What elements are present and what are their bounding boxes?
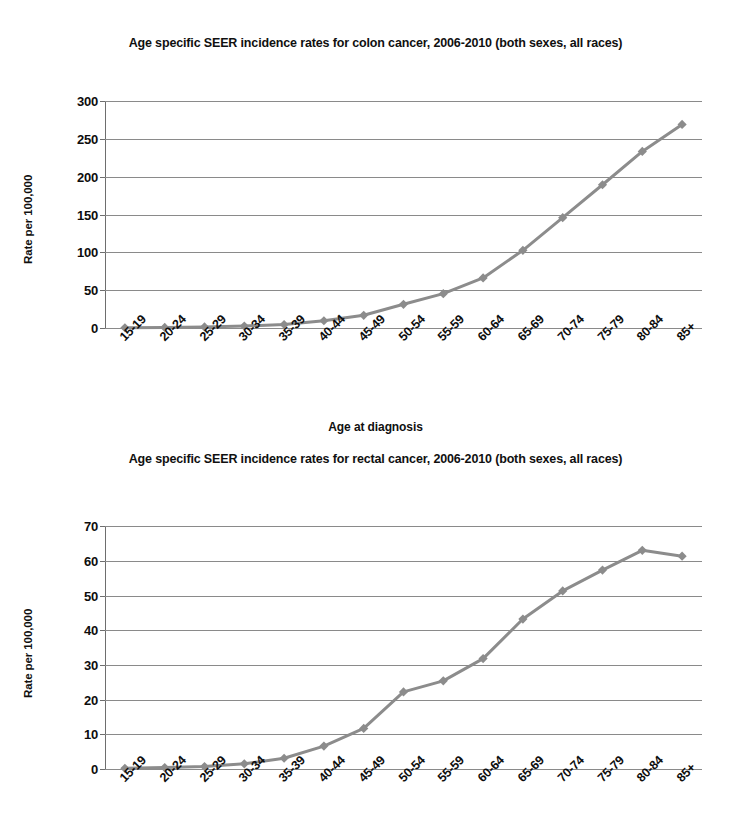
y-axis-tick-label: 150 (77, 207, 98, 222)
y-axis-tick-label: 0 (91, 321, 98, 336)
plot-rectal: 010203040506070 (105, 526, 702, 769)
plot-colon: 050100150200250300 (105, 101, 702, 328)
y-axis-tick-label: 50 (84, 588, 98, 603)
chart-title-rectal: Age specific SEER incidence rates for re… (76, 450, 676, 468)
y-axis-tick-label: 60 (84, 553, 98, 568)
data-point-marker (399, 300, 408, 309)
series-line (125, 550, 682, 768)
data-series (105, 526, 702, 769)
data-point-marker (678, 552, 687, 561)
x-axis-title-colon: Age at diagnosis (0, 420, 751, 434)
y-axis-tick-label: 250 (77, 131, 98, 146)
chart-colon-cancer: Age specific SEER incidence rates for co… (0, 34, 751, 434)
data-point-marker (359, 311, 368, 320)
y-axis-tick-label: 20 (84, 692, 98, 707)
data-point-marker (319, 742, 328, 751)
y-axis-tick-label: 70 (84, 519, 98, 534)
y-axis-tick-label: 30 (84, 657, 98, 672)
data-point-marker (280, 754, 289, 763)
y-axis-tick-label: 50 (84, 283, 98, 298)
y-axis-tick-label: 200 (77, 169, 98, 184)
series-line (125, 125, 682, 328)
y-axis-title-colon: Rate per 100,000 (22, 175, 34, 264)
y-axis-tick (100, 328, 105, 329)
figure-page: Age specific SEER incidence rates for co… (0, 0, 751, 829)
chart-title-colon: Age specific SEER incidence rates for co… (76, 34, 676, 52)
data-series (105, 101, 702, 328)
y-axis-title-rectal: Rate per 100,000 (22, 609, 34, 698)
y-axis-tick-label: 100 (77, 245, 98, 260)
y-axis-tick-label: 0 (91, 762, 98, 777)
y-axis-tick (100, 769, 105, 770)
y-axis-tick-label: 40 (84, 623, 98, 638)
y-axis-tick-label: 10 (84, 727, 98, 742)
data-point-marker (439, 289, 448, 298)
chart-rectal-cancer: Age specific SEER incidence rates for re… (0, 450, 751, 829)
y-axis-tick-label: 300 (77, 94, 98, 109)
